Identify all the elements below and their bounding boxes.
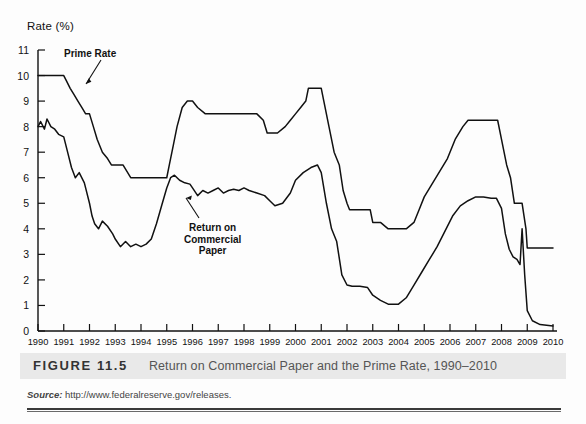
x-tick-label: 2008: [491, 337, 512, 347]
commercial-paper-annotation-line3: Paper: [184, 245, 241, 257]
x-tick-label: 2001: [311, 337, 332, 347]
y-tick-label: 11: [18, 44, 29, 56]
y-tick-label: 6: [23, 172, 29, 184]
y-tick-label: 0: [23, 325, 29, 337]
x-tick-label: 1993: [105, 337, 126, 347]
x-tick-label: 1996: [182, 337, 203, 347]
chart-axes: [38, 50, 557, 331]
y-tick-label: 9: [23, 95, 29, 107]
y-tick-label: 10: [17, 70, 29, 82]
x-tick-label: 2003: [362, 337, 383, 347]
y-tick-label: 2: [23, 274, 29, 286]
annotation-leaders: [86, 60, 199, 218]
x-tick-label: 1994: [131, 337, 152, 347]
series-line-commercial-paper: [38, 119, 553, 326]
bottom-rule-secondary: [27, 411, 561, 412]
y-tick-label: 7: [23, 146, 29, 158]
x-tick-label: 2010: [543, 337, 564, 347]
commercial-paper-annotation-line2: Commercial: [184, 234, 241, 246]
x-tick-labels: 1990199119921993199419951996199719981999…: [28, 337, 564, 347]
x-tick-label: 2000: [285, 337, 306, 347]
y-tick-label: 1: [23, 299, 29, 311]
commercial-paper-leader-line: [186, 198, 199, 218]
x-tick-label: 2009: [517, 337, 538, 347]
x-tick-label: 2002: [337, 337, 358, 347]
x-tick-label: 2006: [440, 337, 461, 347]
y-tick-label: 4: [23, 223, 29, 235]
commercial-paper-annotation: Return on Commercial Paper: [184, 222, 241, 257]
chart-series: [38, 76, 553, 326]
prime-rate-annotation: Prime Rate: [64, 48, 116, 60]
x-tick-label: 1999: [259, 337, 280, 347]
bottom-rule: [27, 408, 561, 410]
y-tick-label: 3: [23, 248, 29, 260]
x-tick-label: 1998: [234, 337, 255, 347]
figure-title: Return on Commercial Paper and the Prime…: [149, 359, 497, 373]
x-tick-label: 2005: [414, 337, 435, 347]
figure-caption: FIGURE 11.5 Return on Commercial Paper a…: [33, 358, 497, 373]
x-tick-label: 2007: [465, 337, 486, 347]
x-tick-label: 2004: [388, 337, 409, 347]
series-line-prime-rate: [38, 76, 553, 248]
y-tick-label: 8: [23, 121, 29, 133]
x-tick-label: 1995: [156, 337, 177, 347]
source-note: Source: http://www.federalreserve.gov/re…: [27, 389, 231, 400]
x-tick-label: 1991: [53, 337, 74, 347]
y-tick-labels: 01234567891011: [17, 44, 29, 337]
source-url: http://www.federalreserve.gov/releases.: [65, 389, 231, 400]
x-tick-label: 1997: [208, 337, 229, 347]
y-tick-label: 5: [23, 197, 29, 209]
x-tick-label: 1990: [28, 337, 49, 347]
figure-number: FIGURE 11.5: [33, 358, 128, 373]
commercial-paper-annotation-line1: Return on: [184, 222, 241, 234]
source-label: Source:: [27, 389, 62, 400]
figure-page: Rate (%) 01234567891011 1990199119921993…: [0, 0, 586, 424]
prime-rate-arrowhead: [86, 78, 91, 84]
x-tick-label: 1992: [79, 337, 100, 347]
